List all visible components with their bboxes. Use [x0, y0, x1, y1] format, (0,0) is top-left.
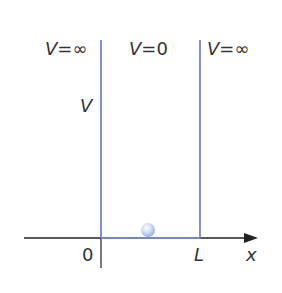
region-label-right: V=∞: [207, 38, 249, 59]
y-axis-label: V: [80, 95, 94, 116]
x-axis-arrow-icon: [244, 233, 258, 243]
well-width-label: L: [194, 244, 204, 265]
region-label-middle: V=0: [129, 38, 168, 59]
origin-label: 0: [82, 244, 93, 265]
particle-ball: [141, 223, 155, 237]
region-label-left: V=∞: [45, 38, 87, 59]
square-well-diagram: V=∞ V=0 V=∞ V 0 L x: [0, 0, 282, 293]
x-axis-label: x: [245, 244, 257, 265]
